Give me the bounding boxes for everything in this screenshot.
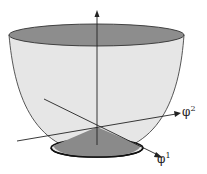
phi1-superscript: 1	[165, 151, 170, 160]
vertical-axis-arrow-icon	[95, 10, 100, 17]
top-cap	[9, 24, 184, 46]
phi2-label: φ2	[182, 104, 196, 119]
phi2-axis-arrow-icon	[174, 111, 181, 117]
phi2-superscript: 2	[190, 104, 195, 113]
phi1-label: φ1	[157, 151, 171, 166]
potential-diagram	[0, 0, 207, 174]
